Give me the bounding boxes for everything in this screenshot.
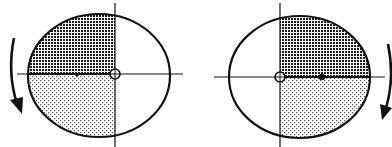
right-upper-dense-quadrant (280, 0, 380, 77)
left-upper-dense-quadrant (20, 0, 115, 74)
right-centroid-dot-icon (319, 74, 325, 80)
right-rotation-arrow-icon (380, 44, 392, 120)
left-rotation-arrow-icon (10, 38, 23, 114)
diagram-canvas (0, 0, 392, 147)
left-figure (10, 0, 183, 147)
diagram-svg (0, 0, 392, 147)
right-lower-dotted-quadrant (280, 77, 380, 147)
right-figure (214, 0, 392, 147)
